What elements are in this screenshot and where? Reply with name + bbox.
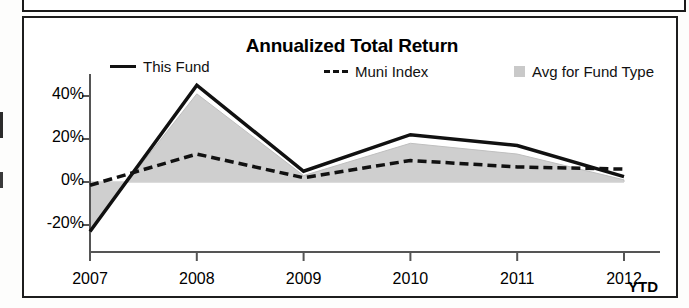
x-tick-label: 2010 xyxy=(370,270,450,288)
left-margin-rule xyxy=(0,112,3,138)
chart-panel: Annualized Total Return This Fund Muni I… xyxy=(22,16,678,298)
left-margin-rule-lower xyxy=(0,172,3,188)
x-axis-ytd-note: YTD xyxy=(628,278,658,295)
y-tick-label: 20% xyxy=(24,128,84,146)
x-tick-label: 2011 xyxy=(477,270,557,288)
x-tick-label: 2007 xyxy=(50,270,130,288)
scanned-page: Annualized Total Return This Fund Muni I… xyxy=(0,0,689,308)
x-tick-label: 2008 xyxy=(157,270,237,288)
x-tick-label: 2009 xyxy=(264,270,344,288)
chart-plot-area xyxy=(24,18,680,300)
series-area-avg-fund-type xyxy=(90,94,624,229)
y-tick-label: 40% xyxy=(24,85,84,103)
y-tick-label: 0% xyxy=(24,171,84,189)
y-tick-label: -20% xyxy=(24,214,84,232)
top-box-fragment xyxy=(22,0,686,12)
